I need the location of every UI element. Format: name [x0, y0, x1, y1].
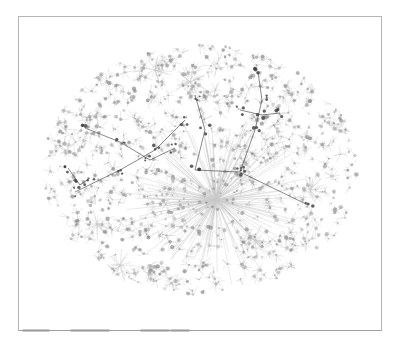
bottom-artifact — [22, 329, 50, 332]
bottom-artifact — [70, 329, 110, 332]
bottom-artifact — [140, 329, 170, 332]
network-graph — [0, 0, 404, 344]
bottom-artifact — [170, 329, 190, 332]
